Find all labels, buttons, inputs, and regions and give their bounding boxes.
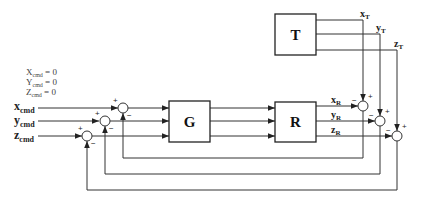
- sum-junction-y-right: [375, 116, 385, 126]
- output-y-t: yT: [376, 22, 386, 35]
- sign-plus: +: [402, 122, 407, 131]
- output-y-r: yR: [331, 109, 342, 122]
- sign-minus: −: [127, 111, 132, 120]
- sign-plus: +: [368, 92, 373, 101]
- output-x-t: xT: [360, 8, 370, 21]
- sign-plus: +: [385, 107, 390, 116]
- sign-minus: −: [369, 111, 374, 120]
- sum-junction-z-right: [392, 131, 402, 141]
- sign-minus: −: [352, 96, 357, 105]
- block-t-label: T: [290, 27, 300, 43]
- output-z-t: zT: [394, 38, 403, 51]
- sign-minus: −: [109, 124, 114, 133]
- output-z-r: zR: [331, 124, 341, 137]
- sign-minus: −: [386, 126, 391, 135]
- input-y-cmd: ycmd: [14, 113, 35, 129]
- sum-junction-x-right: [358, 101, 368, 111]
- input-z-cmd: zcmd: [14, 128, 35, 144]
- sign-minus: −: [91, 139, 96, 148]
- ic-z: Zcmd = 0: [26, 87, 56, 98]
- block-g-label: G: [184, 114, 196, 130]
- sign-plus: +: [95, 109, 100, 118]
- output-x-r: xR: [331, 94, 342, 107]
- block-r-label: R: [290, 114, 301, 130]
- sign-plus: +: [78, 124, 83, 133]
- block-diagram: G R T Xcmd = 0 Ycmd = 0 Zcmd = 0 xcmd yc…: [0, 0, 421, 204]
- sign-plus: +: [113, 96, 118, 105]
